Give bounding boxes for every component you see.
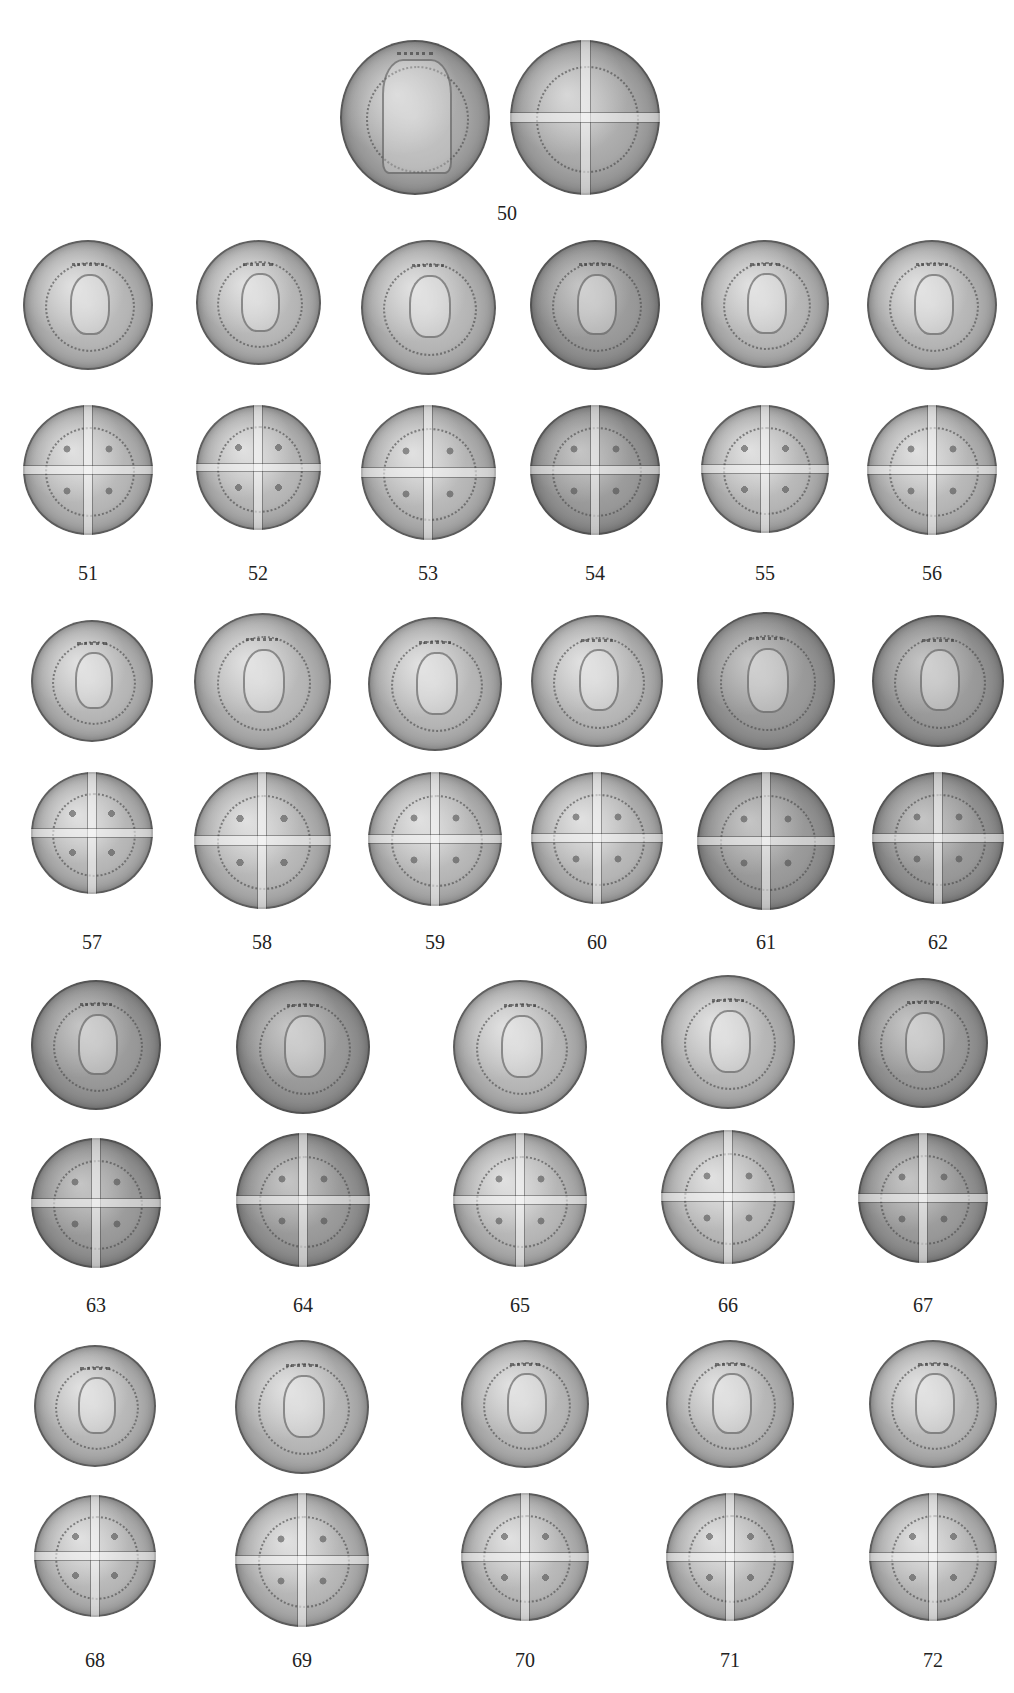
coin-54-reverse — [530, 405, 660, 535]
pellets-motif — [276, 854, 292, 870]
pellets-motif — [946, 1529, 961, 1544]
bust-motif — [283, 1375, 325, 1438]
coin-53-obverse — [361, 240, 496, 375]
pellets-motif — [68, 1568, 83, 1583]
cross-motif — [701, 465, 829, 473]
pellets-motif — [909, 809, 925, 825]
coin-number-label: 53 — [398, 563, 458, 583]
pellets-motif — [737, 482, 752, 497]
coin-68-obverse — [34, 1345, 156, 1467]
cross-motif — [461, 1553, 589, 1561]
coin-number-label: 69 — [272, 1650, 332, 1670]
pellets-motif — [894, 1211, 910, 1227]
pellets-motif — [448, 852, 464, 868]
coin-number-label: 64 — [273, 1295, 333, 1315]
pellets-motif — [610, 851, 626, 867]
pellets-motif — [533, 1171, 549, 1187]
pellets-motif — [271, 440, 286, 455]
coin-number-label: 68 — [65, 1650, 125, 1670]
coin-number-label: 56 — [902, 563, 962, 583]
pellets-motif — [406, 852, 422, 868]
pellets-motif — [566, 483, 582, 499]
pellets-motif — [538, 1529, 553, 1544]
coin-56-reverse — [867, 405, 997, 535]
coin-number-label: 62 — [908, 932, 968, 952]
pellets-motif — [274, 1171, 290, 1187]
coin-60-obverse — [531, 615, 663, 747]
coin-51-obverse — [23, 240, 153, 370]
coin-71-reverse — [666, 1493, 794, 1621]
coin-number-label: 51 — [58, 563, 118, 583]
pellets-motif — [780, 811, 797, 828]
bust-motif — [915, 1373, 955, 1433]
enthroned-king-motif — [382, 59, 452, 175]
pellets-motif — [67, 1216, 83, 1232]
coin-70-reverse — [461, 1493, 589, 1621]
coin-67-obverse — [858, 978, 988, 1108]
pellets-motif — [442, 486, 458, 502]
pellets-motif — [315, 1531, 331, 1547]
bust-motif — [416, 652, 458, 715]
coin-number-label: 54 — [565, 563, 625, 583]
cross-motif — [31, 1199, 161, 1207]
coin-number-label: 61 — [736, 932, 796, 952]
pellets-motif — [566, 441, 582, 457]
pellets-motif — [736, 855, 753, 872]
coin-number-label: 65 — [490, 1295, 550, 1315]
pellets-motif — [104, 845, 119, 860]
cross-motif — [531, 834, 663, 842]
coin-50-obverse — [340, 40, 490, 195]
coin-number-label: 59 — [405, 932, 465, 952]
cross-motif — [666, 1553, 794, 1561]
coin-59-obverse — [368, 617, 502, 751]
coin-59-reverse — [368, 772, 502, 906]
coin-57-obverse — [31, 620, 153, 742]
cross-motif — [858, 1194, 988, 1202]
bust-motif — [920, 649, 961, 711]
pellets-motif — [702, 1570, 717, 1585]
pellets-motif — [743, 1570, 758, 1585]
bust-motif — [905, 1012, 945, 1073]
pellets-motif — [699, 1168, 715, 1184]
coin-number-label: 55 — [735, 563, 795, 583]
pellets-motif — [101, 483, 117, 499]
pellets-motif — [936, 1211, 952, 1227]
pellets-motif — [109, 1174, 125, 1190]
pellets-motif — [232, 854, 248, 870]
bust-motif — [914, 274, 954, 335]
pellets-motif — [903, 483, 919, 499]
coin-number-label: 67 — [893, 1295, 953, 1315]
pellets-motif — [946, 1570, 961, 1585]
bust-motif — [284, 1015, 326, 1078]
pellets-motif — [741, 1210, 757, 1226]
coin-72-obverse — [869, 1340, 997, 1468]
bust-motif — [712, 1373, 752, 1433]
coin-50-reverse — [510, 40, 660, 195]
pellets-motif — [231, 480, 246, 495]
pellets-motif — [491, 1171, 507, 1187]
bust-motif — [747, 648, 790, 713]
pellets-motif — [442, 443, 458, 459]
pellets-motif — [778, 441, 793, 456]
bust-motif — [747, 273, 787, 333]
pellets-motif — [778, 482, 793, 497]
coin-56-obverse — [867, 240, 997, 370]
cross-motif — [697, 837, 835, 845]
pellets-motif — [65, 845, 80, 860]
pellets-motif — [741, 1168, 757, 1184]
bust-motif — [507, 1373, 547, 1433]
pellets-motif — [905, 1570, 920, 1585]
pellets-motif — [59, 483, 75, 499]
bust-motif — [78, 1014, 118, 1075]
pellets-motif — [109, 1216, 125, 1232]
pellets-motif — [315, 1573, 331, 1589]
cross-motif — [869, 1553, 997, 1561]
coin-number-label: 52 — [228, 563, 288, 583]
pellets-motif — [936, 1169, 952, 1185]
coin-65-obverse — [453, 980, 587, 1114]
coin-66-reverse — [661, 1130, 795, 1264]
cross-motif — [368, 835, 502, 843]
pellets-motif — [316, 1171, 332, 1187]
coin-69-obverse — [235, 1340, 369, 1474]
coin-60-reverse — [531, 772, 663, 904]
